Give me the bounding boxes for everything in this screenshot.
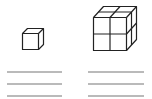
small-cube (23, 29, 44, 50)
answer-lines-right (88, 72, 144, 96)
large-cube (94, 7, 137, 51)
answer-lines-left (7, 72, 62, 96)
figure (0, 0, 152, 99)
